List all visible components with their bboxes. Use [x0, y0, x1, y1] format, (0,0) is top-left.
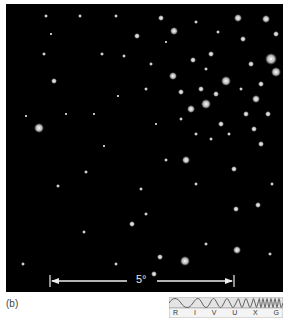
star-field-photo	[6, 4, 283, 292]
band-v: V	[212, 309, 217, 319]
panel-label: (b)	[6, 298, 18, 309]
band-x: X	[253, 309, 258, 319]
scale-bar-label: 5°	[136, 273, 147, 285]
band-i: I	[194, 309, 196, 319]
band-r: R	[173, 309, 178, 319]
stars-layer	[6, 4, 283, 292]
band-g: G	[273, 309, 278, 319]
band-u: U	[232, 309, 237, 319]
spectrum-band-labels: R I V U X G	[169, 309, 283, 319]
